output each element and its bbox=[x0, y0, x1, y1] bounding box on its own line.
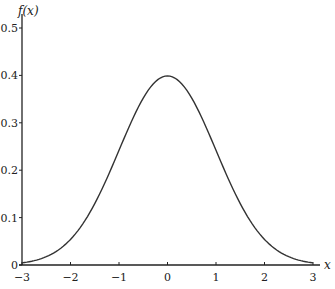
x-tick-label: 1 bbox=[213, 271, 220, 284]
density-curve bbox=[22, 76, 313, 263]
y-axis-title: f(x) bbox=[17, 4, 39, 18]
y-tick-label: 0.3 bbox=[1, 117, 19, 130]
y-tick-label: 0.1 bbox=[1, 212, 19, 225]
x-tick-label: 3 bbox=[310, 271, 317, 284]
normal-density-chart: 00.10.20.30.40.5 −3−2−10123 f(x) x bbox=[0, 0, 335, 289]
x-tick-label: −2 bbox=[62, 271, 78, 284]
y-tick-label: 0.2 bbox=[1, 164, 19, 177]
x-axis: −3−2−10123 bbox=[14, 262, 320, 284]
y-tick-label: 0.4 bbox=[1, 69, 19, 82]
y-tick-label: 0.5 bbox=[1, 22, 19, 35]
x-axis-title: x bbox=[324, 258, 331, 272]
x-tick-label: 0 bbox=[164, 271, 171, 284]
x-tick-label: 2 bbox=[261, 271, 268, 284]
x-tick-label: −3 bbox=[14, 271, 30, 284]
x-tick-label: −1 bbox=[111, 271, 127, 284]
y-axis: 00.10.20.30.40.5 bbox=[1, 14, 23, 272]
